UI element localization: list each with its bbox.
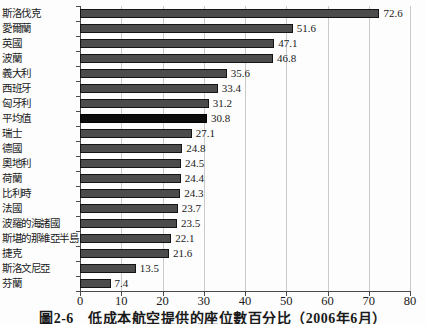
value-label: 21.6 (173, 248, 192, 259)
bar (80, 144, 182, 153)
value-label: 13.5 (140, 263, 159, 274)
bar-track: 35.6 (80, 66, 410, 81)
category-label: 芬蘭 (0, 276, 80, 291)
value-label: 24.8 (186, 143, 205, 154)
bar-track: 24.5 (80, 156, 410, 171)
chart-row: 平均值30.8 (0, 111, 410, 126)
y-axis-tickmark (76, 246, 80, 247)
bar (80, 234, 171, 243)
x-tick-label: 10 (115, 294, 128, 308)
bar-track: 24.8 (80, 141, 410, 156)
bar-track: 22.1 (80, 231, 410, 246)
y-axis-tickmark (76, 21, 80, 22)
y-axis-tickmark (76, 6, 80, 7)
bar (80, 24, 293, 33)
category-label: 斯洛文尼亞 (0, 261, 80, 276)
chart-row: 愛爾蘭51.6 (0, 21, 410, 36)
bar (80, 264, 136, 273)
y-axis-tickmark (76, 201, 80, 202)
category-label: 法國 (0, 201, 80, 216)
bar-track: 72.6 (80, 6, 410, 21)
value-label: 22.1 (175, 233, 194, 244)
y-axis-tickmark (76, 141, 80, 142)
y-axis-tickmark (76, 81, 80, 82)
y-axis-tickmark (76, 231, 80, 232)
chart-row: 瑞士27.1 (0, 126, 410, 141)
bar (80, 174, 181, 183)
chart-rows: 斯洛伐克72.6愛爾蘭51.6英國47.1波蘭46.8義大利35.6西班牙33.… (0, 6, 410, 291)
chart-row: 斯洛伐克72.6 (0, 6, 410, 21)
y-axis-tickmark (76, 186, 80, 187)
category-label: 德國 (0, 141, 80, 156)
bar-track: 21.6 (80, 246, 410, 261)
chart-row: 波蘭46.8 (0, 51, 410, 66)
y-axis-tickmark (76, 276, 80, 277)
chart-row: 芬蘭7.4 (0, 276, 410, 291)
value-label: 51.6 (297, 23, 316, 34)
y-axis-tickmark (76, 171, 80, 172)
bar-track: 24.3 (80, 186, 410, 201)
category-label: 波蘭 (0, 51, 80, 66)
bar-track: 13.5 (80, 261, 410, 276)
chart-row: 德國24.8 (0, 141, 410, 156)
bar (80, 54, 273, 63)
value-label: 27.1 (196, 128, 215, 139)
bar-track: 51.6 (80, 21, 410, 36)
value-label: 24.5 (185, 158, 204, 169)
bar (80, 69, 227, 78)
bar (80, 279, 111, 288)
value-label: 24.3 (184, 188, 203, 199)
figure: 斯洛伐克72.6愛爾蘭51.6英國47.1波蘭46.8義大利35.6西班牙33.… (0, 0, 426, 324)
bar (80, 129, 192, 138)
y-axis-tickmark (76, 96, 80, 97)
value-label: 24.4 (185, 173, 204, 184)
x-tick-label: 70 (363, 294, 376, 308)
gridline (410, 6, 411, 291)
chart-row: 荷蘭24.4 (0, 171, 410, 186)
category-label: 斯堪的那維亞半島 (0, 231, 80, 246)
average-bar (80, 114, 207, 123)
value-label: 23.5 (181, 218, 200, 229)
bar (80, 219, 177, 228)
value-label: 35.6 (231, 68, 250, 79)
chart-row: 西班牙33.4 (0, 81, 410, 96)
category-label: 西班牙 (0, 81, 80, 96)
y-axis-tickmark (76, 261, 80, 262)
x-tick-label: 20 (156, 294, 169, 308)
x-tick-label: 80 (404, 294, 417, 308)
value-label: 46.8 (277, 53, 296, 64)
category-label: 英國 (0, 36, 80, 51)
category-label: 義大利 (0, 66, 80, 81)
category-label: 平均值 (0, 111, 80, 126)
bar (80, 9, 379, 18)
bar-track: 24.4 (80, 171, 410, 186)
chart-row: 捷克21.6 (0, 246, 410, 261)
bar-track: 30.8 (80, 111, 410, 126)
value-label: 31.2 (213, 98, 232, 109)
bar (80, 99, 209, 108)
bar-track: 31.2 (80, 96, 410, 111)
bar (80, 249, 169, 258)
bar (80, 84, 218, 93)
bar (80, 39, 274, 48)
bar-track: 46.8 (80, 51, 410, 66)
y-axis-tickmark (76, 66, 80, 67)
y-axis-tickmark (76, 51, 80, 52)
chart-row: 英國47.1 (0, 36, 410, 51)
bar-track: 47.1 (80, 36, 410, 51)
bar-track: 23.5 (80, 216, 410, 231)
chart-row: 匈牙利31.2 (0, 96, 410, 111)
y-axis-tickmark (76, 36, 80, 37)
chart-row: 比利時24.3 (0, 186, 410, 201)
bar (80, 204, 178, 213)
x-tick-label: 60 (321, 294, 334, 308)
chart-row: 義大利35.6 (0, 66, 410, 81)
value-label: 72.6 (383, 8, 402, 19)
value-label: 7.4 (115, 278, 129, 289)
value-label: 23.7 (182, 203, 201, 214)
y-axis-tickmark (76, 156, 80, 157)
bar-track: 23.7 (80, 201, 410, 216)
bar (80, 159, 181, 168)
figure-caption: 圖2-6 低成本航空提供的座位數百分比（2006年6月） (0, 311, 426, 324)
value-label: 30.8 (211, 113, 230, 124)
